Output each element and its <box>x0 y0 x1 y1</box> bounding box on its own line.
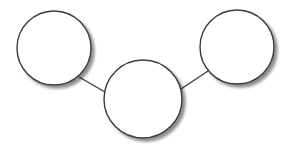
diagram-canvas <box>0 0 287 149</box>
edge-center-right <box>181 71 208 89</box>
node-circle-left <box>17 11 91 85</box>
node-circle-right <box>200 10 274 84</box>
node-circle-center <box>104 60 182 138</box>
edge-left-center <box>79 77 105 92</box>
